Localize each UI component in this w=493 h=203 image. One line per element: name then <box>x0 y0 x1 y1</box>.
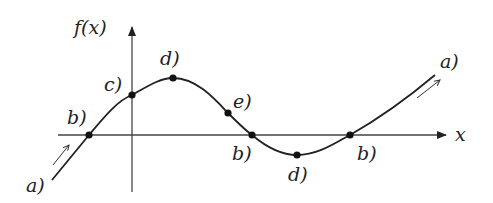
point-e <box>224 109 231 116</box>
function-graph-diagram: f(x) x b) c) d) e) b) d) b) a) a) <box>0 0 493 203</box>
label-b-left: b) <box>67 106 87 128</box>
graph-svg: f(x) x b) c) d) e) b) d) b) a) a) <box>0 0 493 203</box>
point-b-right <box>346 131 353 138</box>
label-d-max: d) <box>160 47 180 69</box>
point-c <box>128 91 135 98</box>
y-axis-label: f(x) <box>72 16 107 38</box>
point-d-min <box>293 151 300 158</box>
x-axis-label: x <box>455 123 466 145</box>
point-b-mid <box>248 131 255 138</box>
label-a-left: a) <box>26 174 45 196</box>
direction-arrow-right <box>417 80 440 98</box>
label-b-mid: b) <box>232 142 252 164</box>
label-c: c) <box>104 73 122 95</box>
label-a-right: a) <box>440 50 459 72</box>
label-b-right: b) <box>357 142 377 164</box>
point-b-left <box>85 131 92 138</box>
label-e: e) <box>233 90 252 112</box>
point-d-max <box>169 74 176 81</box>
label-d-min: d) <box>288 163 308 185</box>
